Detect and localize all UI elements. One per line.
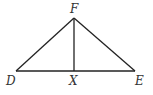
segment-df — [16, 18, 74, 71]
segment-fe — [74, 18, 135, 71]
label-d: D — [5, 74, 16, 88]
label-x: X — [68, 74, 78, 88]
triangle-diagram: F D X E — [0, 0, 153, 95]
label-f: F — [69, 2, 79, 16]
label-e: E — [134, 74, 144, 88]
